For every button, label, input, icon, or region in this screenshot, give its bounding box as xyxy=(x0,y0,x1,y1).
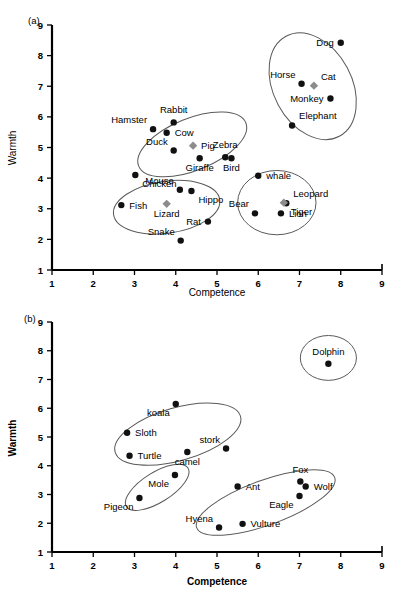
point-label: camel xyxy=(175,456,200,467)
y-tick-label: 7 xyxy=(38,374,43,385)
y-tick-label: 3 xyxy=(38,203,43,214)
marker-circle xyxy=(170,147,176,153)
x-tick-label: 2 xyxy=(91,278,96,289)
point-label: Cat xyxy=(321,71,336,82)
y-axis-title: Warmth xyxy=(7,420,18,457)
y-tick-label: 4 xyxy=(38,173,44,184)
data-point: Monkey xyxy=(290,93,333,104)
point-label: Elephant xyxy=(299,110,337,121)
marker-circle xyxy=(136,495,142,501)
y-tick-label: 1 xyxy=(38,265,44,276)
x-tick-label: 2 xyxy=(91,560,96,571)
x-tick-label: 1 xyxy=(49,560,55,571)
data-point: Giraffe xyxy=(186,155,214,173)
data-point: Fox xyxy=(292,464,308,485)
data-point: Cat xyxy=(310,71,336,90)
point-label: whale xyxy=(265,170,291,181)
panel-b: 123456789123456789(b)WarmthCompetenceDol… xyxy=(0,300,404,597)
marker-circle xyxy=(239,521,245,527)
x-tick-label: 7 xyxy=(297,560,302,571)
y-tick-label: 7 xyxy=(38,81,43,92)
point-label: Sloth xyxy=(135,427,157,438)
marker-circle xyxy=(228,155,234,161)
data-point: Ant xyxy=(234,481,260,492)
data-point: Dog xyxy=(316,37,344,48)
marker-circle xyxy=(216,524,222,530)
y-tick-label: 6 xyxy=(38,111,43,122)
point-label: Wolf xyxy=(314,481,333,492)
marker-diamond xyxy=(189,141,197,149)
y-tick-label: 9 xyxy=(38,317,43,328)
marker-diamond xyxy=(162,200,170,208)
data-point: Fish xyxy=(118,200,147,211)
marker-circle xyxy=(172,472,178,478)
point-label: Lizard xyxy=(154,208,180,219)
point-label: Hippo xyxy=(198,194,223,205)
point-label: koala xyxy=(147,407,170,418)
y-tick-label: 5 xyxy=(38,142,44,153)
marker-circle xyxy=(184,449,190,455)
point-label: Ant xyxy=(246,481,261,492)
marker-circle xyxy=(297,478,303,484)
panel-a: 123456789123456789(a)WarmthCompetenceDog… xyxy=(0,0,404,300)
x-tick-label: 9 xyxy=(379,278,384,289)
data-point: Rabbit xyxy=(160,104,188,125)
marker-diamond xyxy=(310,81,318,89)
point-label: Giraffe xyxy=(186,162,214,173)
point-label: Hamster xyxy=(111,114,147,125)
x-tick-label: 8 xyxy=(338,278,343,289)
dolphin-cluster xyxy=(300,336,356,381)
marker-circle xyxy=(170,119,176,125)
data-point: koala xyxy=(147,401,179,418)
data-point: Eagle xyxy=(269,493,303,510)
data-point: Lizard xyxy=(154,200,180,219)
data-point: Vulture xyxy=(239,518,280,529)
data-point: Pigeon xyxy=(104,495,143,512)
point-label: Bear xyxy=(229,198,249,209)
marker-circle xyxy=(118,202,124,208)
marker-circle xyxy=(124,429,130,435)
point-label: Cow xyxy=(175,127,194,138)
data-point: Zebra xyxy=(213,139,239,160)
x-tick-label: 4 xyxy=(173,560,179,571)
data-point: Mouse xyxy=(145,175,183,193)
predator-cluster xyxy=(189,456,342,548)
data-point: Bear xyxy=(229,198,258,216)
marker-circle xyxy=(234,483,240,489)
x-tick-label: 7 xyxy=(297,278,302,289)
point-label: Rabbit xyxy=(160,104,188,115)
point-label: Duck xyxy=(146,136,168,147)
point-label: Monkey xyxy=(290,93,324,104)
marker-circle xyxy=(298,81,304,87)
marker-circle xyxy=(255,172,261,178)
point-label: Zebra xyxy=(213,139,239,150)
x-tick-label: 8 xyxy=(338,560,343,571)
y-tick-label: 8 xyxy=(38,345,43,356)
marker-circle xyxy=(338,40,344,46)
point-label: Dolphin xyxy=(312,346,344,357)
panel-tag: (a) xyxy=(28,15,40,26)
y-tick-label: 4 xyxy=(38,460,44,471)
y-tick-label: 2 xyxy=(38,518,43,529)
point-label: Horse xyxy=(270,69,295,80)
x-tick-label: 1 xyxy=(49,278,55,289)
y-tick-label: 6 xyxy=(38,403,43,414)
y-tick-label: 3 xyxy=(38,489,43,500)
y-axis-title: Warmth xyxy=(7,131,18,166)
point-label: Dog xyxy=(316,37,333,48)
point-label: Pigeon xyxy=(104,501,134,512)
marker-circle xyxy=(205,218,211,224)
point-label: Snake xyxy=(148,226,175,237)
point-label: Tiger xyxy=(291,206,312,217)
data-point: Cow xyxy=(163,127,193,138)
point-label: Vulture xyxy=(251,518,281,529)
y-tick-label: 2 xyxy=(38,234,43,245)
point-label: Leopard xyxy=(293,188,328,199)
data-point: Hyena xyxy=(186,513,223,531)
data-point: Pig xyxy=(189,140,215,151)
scatter-plot-a: 123456789123456789(a)WarmthCompetenceDog… xyxy=(0,0,404,300)
data-point: Leopard xyxy=(283,188,328,206)
marker-circle xyxy=(223,445,229,451)
y-tick-label: 5 xyxy=(38,432,44,443)
y-tick-label: 1 xyxy=(38,547,44,558)
